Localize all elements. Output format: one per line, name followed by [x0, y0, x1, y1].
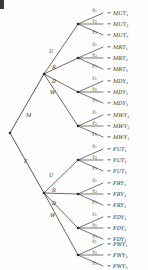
outcome-label-MWY2: MWY2 — [113, 123, 129, 130]
outcome-label-FDY2: FDY2 — [113, 225, 127, 232]
equals-sign: = — [107, 134, 111, 139]
edge-F-W — [44, 193, 78, 255]
edge-M-W — [44, 74, 78, 126]
gamma-label-MW2: γ2 — [92, 120, 97, 126]
outcome-label-MUT3: MUT3 — [113, 32, 128, 39]
gamma-label-FW3: γ3 — [92, 260, 97, 266]
equals-sign: = — [107, 123, 111, 128]
equals-sign: = — [107, 10, 111, 15]
gamma-label-FU2: γ2 — [92, 154, 97, 160]
equals-sign: = — [107, 112, 111, 117]
equals-sign: = — [107, 191, 111, 196]
equals-sign: = — [107, 241, 111, 246]
outcome-label-FWY2: FWY2 — [113, 252, 128, 259]
branch-label-M-W: W — [50, 89, 55, 95]
gamma-label-MD3: γ3 — [92, 97, 97, 103]
gamma-label-MW3: γ3 — [92, 131, 97, 137]
equals-sign: = — [107, 157, 111, 162]
outcome-label-MDY3: MDY3 — [113, 100, 128, 107]
equals-sign: = — [107, 202, 111, 207]
branch-label-F-R: R — [52, 187, 56, 193]
gamma-label-MD1: γ1 — [92, 75, 97, 81]
gamma-label-MR1: γ1 — [92, 41, 97, 47]
equals-sign: = — [107, 214, 111, 219]
outcome-label-MDY2: MDY2 — [113, 89, 128, 96]
equals-sign: = — [107, 263, 111, 268]
equals-sign: = — [107, 78, 111, 83]
gamma-label-FR3: γ3 — [92, 199, 97, 205]
edge-F-R — [44, 193, 78, 194]
edge-gamma-FD1 — [78, 217, 103, 228]
edge-gamma-MD3 — [78, 92, 103, 103]
edge-root-M — [10, 74, 44, 133]
gamma-label-MU2: γ2 — [92, 18, 97, 24]
edge-gamma-FW1 — [78, 244, 103, 255]
branch-label-M-D: D — [52, 78, 56, 84]
outcome-label-MUT2: MUT2 — [113, 21, 128, 28]
gamma-label-FW2: γ2 — [92, 249, 97, 255]
outcome-label-FRY1: FRY1 — [113, 180, 126, 187]
gamma-label-FU1: γ1 — [92, 143, 97, 149]
outcome-label-MWY1: MWY1 — [113, 112, 129, 119]
gamma-label-FR2: γ2 — [92, 188, 97, 194]
branch-label-F-U: U — [49, 172, 53, 178]
branch-label-M: M — [26, 112, 31, 118]
gamma-label-MR3: γ3 — [92, 63, 97, 69]
equals-sign: = — [107, 146, 111, 151]
edge-gamma-MR1 — [78, 47, 103, 58]
outcome-label-FDY1: FDY1 — [113, 214, 127, 221]
edge-gamma-FD3 — [78, 228, 103, 239]
edge-gamma-FU1 — [78, 149, 103, 160]
outcome-label-FWY1: FWY1 — [113, 241, 128, 248]
gamma-label-MW1: γ1 — [92, 109, 97, 115]
edge-gamma-MR3 — [78, 58, 103, 69]
equals-sign: = — [107, 225, 111, 230]
outcome-label-MUT1: MUT1 — [113, 10, 128, 17]
gamma-label-FR1: γ1 — [92, 177, 97, 183]
gamma-label-FU3: γ3 — [92, 165, 97, 171]
equals-sign: = — [107, 100, 111, 105]
gamma-label-FW1: γ1 — [92, 238, 97, 244]
equals-sign: = — [107, 66, 111, 71]
edge-F-D — [44, 193, 78, 228]
branch-label-M-U: U — [49, 48, 53, 54]
equals-sign: = — [107, 55, 111, 60]
tree-diagram-canvas: MFUγ1=MUT1γ2=MUT2γ3=MUT3Rγ1=MRT1γ2=MRT2γ… — [0, 0, 148, 270]
edge-gamma-FR1 — [78, 183, 103, 194]
outcome-label-MDY1: MDY1 — [113, 78, 128, 85]
equals-sign: = — [107, 168, 111, 173]
gamma-label-MU3: γ3 — [92, 29, 97, 35]
outcome-label-MRT2: MRT2 — [113, 55, 128, 62]
gamma-label-MU1: γ1 — [92, 7, 97, 13]
gamma-label-FD1: γ1 — [92, 211, 97, 217]
outcome-label-FWY3: FWY3 — [113, 263, 128, 270]
gamma-label-MR2: γ2 — [92, 52, 97, 58]
equals-sign: = — [107, 252, 111, 257]
branch-label-F: F — [24, 158, 28, 164]
equals-sign: = — [107, 21, 111, 26]
branch-label-F-D: D — [52, 200, 56, 206]
gamma-label-FD2: γ2 — [92, 222, 97, 228]
edge-gamma-MD1 — [78, 81, 103, 92]
gamma-label-MD2: γ2 — [92, 86, 97, 92]
edge-gamma-MW3 — [78, 126, 103, 137]
branch-label-F-W: W — [50, 212, 55, 218]
outcome-label-MWY3: MWY3 — [113, 134, 129, 141]
edge-gamma-FU3 — [78, 160, 103, 171]
equals-sign: = — [107, 32, 111, 37]
outcome-label-FUT1: FUT1 — [113, 146, 127, 153]
equals-sign: = — [107, 180, 111, 185]
equals-sign: = — [107, 89, 111, 94]
edge-gamma-FW3 — [78, 255, 103, 266]
outcome-label-MRT3: MRT3 — [113, 66, 128, 73]
outcome-label-FUT3: FUT3 — [113, 168, 127, 175]
edge-gamma-MW1 — [78, 115, 103, 126]
edge-gamma-MU1 — [78, 13, 103, 24]
edge-gamma-FR3 — [78, 194, 103, 205]
outcome-label-FRY3: FRY3 — [113, 202, 126, 209]
edge-gamma-MU3 — [78, 24, 103, 35]
outcome-label-FUT2: FUT2 — [113, 157, 127, 164]
equals-sign: = — [107, 44, 111, 49]
outcome-label-MRT1: MRT1 — [113, 44, 128, 51]
outcome-label-FRY2: FRY2 — [113, 191, 126, 198]
